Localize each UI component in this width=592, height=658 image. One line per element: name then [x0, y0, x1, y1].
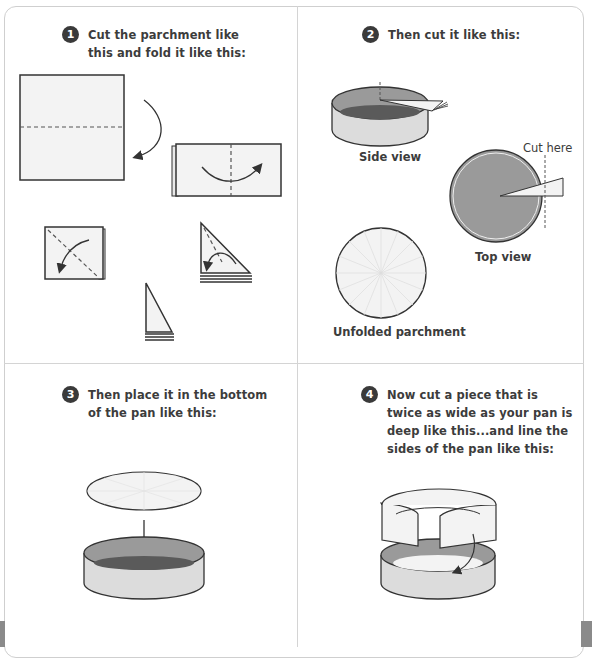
pan-icon [84, 537, 204, 599]
pan-with-lining-icon [381, 489, 496, 599]
folded-rectangle-icon [172, 144, 281, 196]
square-parchment-icon [20, 75, 124, 180]
fold-arrow-icon [136, 100, 161, 157]
parchment-disc-icon [87, 472, 201, 510]
pan-side-view-icon [332, 82, 448, 146]
unfolded-parchment-icon [336, 228, 426, 318]
thin-triangle-icon [145, 283, 174, 340]
folded-square-icon [45, 227, 105, 279]
pan-top-view-icon [450, 150, 563, 242]
folded-triangle-icon [200, 223, 252, 282]
